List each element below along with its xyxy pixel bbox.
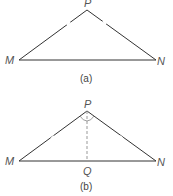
isosceles-triangle-diagram: P M N (a) P M N Q (b) — [0, 0, 173, 196]
vertex-label-m-b: M — [5, 155, 15, 167]
tick-mark-pm-a — [67, 22, 70, 25]
vertex-label-p-b: P — [84, 98, 92, 110]
figure-b: P M N Q (b) — [5, 98, 165, 192]
angle-arc-left — [80, 116, 87, 121]
vertex-label-m-a: M — [5, 54, 15, 66]
vertex-label-q-b: Q — [83, 165, 92, 177]
triangle-a-sides — [19, 10, 156, 60]
tick-mark-pn-a — [103, 21, 106, 24]
vertex-label-n-b: N — [157, 156, 165, 168]
angle-arc-right — [87, 116, 94, 121]
vertex-label-n-a: N — [157, 55, 165, 67]
figure-a: P M N (a) — [5, 0, 165, 84]
caption-a: (a) — [80, 73, 92, 84]
vertex-label-p-a: P — [84, 0, 92, 9]
tick-mark-pm-b — [51, 136, 54, 139]
caption-b: (b) — [80, 181, 92, 192]
